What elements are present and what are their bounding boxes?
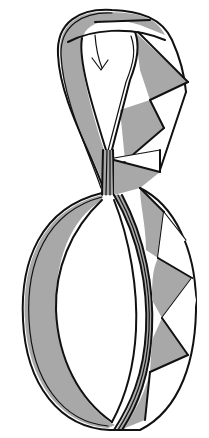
fold-arrow-icon — [92, 35, 108, 70]
bottom-ring — [23, 188, 196, 430]
neck — [102, 150, 160, 195]
origami-diagram — [0, 0, 209, 438]
